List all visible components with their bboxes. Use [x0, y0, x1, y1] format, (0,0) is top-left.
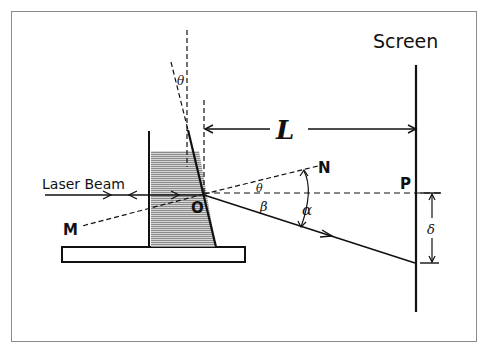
alpha-label: α [302, 201, 312, 219]
point-m-label: M [63, 221, 78, 239]
alpha-arrow-top [300, 170, 308, 176]
point-o-label: O [191, 199, 204, 217]
liquid-fill [151, 151, 216, 247]
base-plate [62, 247, 245, 262]
delta-label: δ [427, 222, 435, 237]
optics-diagram: Screen Laser Beam L O N M P θ θ β α δ [0, 0, 484, 349]
point-p-label: P [400, 175, 411, 193]
point-n-label: N [318, 159, 331, 177]
tilted-reference-line [171, 62, 188, 130]
theta-top-label: θ [177, 74, 185, 88]
screen-label: Screen [373, 30, 438, 52]
beta-label: β [259, 199, 268, 214]
distance-label: L [275, 115, 294, 145]
laser-beam-label: Laser Beam [42, 176, 125, 192]
theta-mid-label: θ [256, 182, 263, 195]
